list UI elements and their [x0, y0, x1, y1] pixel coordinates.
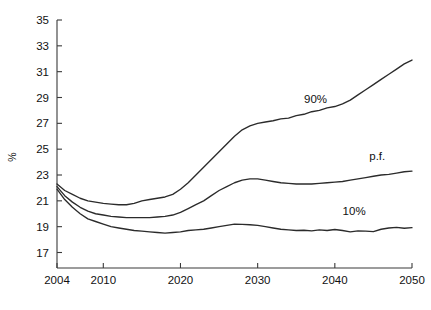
series-label-90: 90% [304, 93, 327, 105]
y-tick-label: 23 [36, 169, 49, 181]
y-axis-title-text: % [6, 152, 18, 161]
y-tick-label: 31 [36, 66, 49, 78]
y-axis-title: % [6, 152, 18, 161]
y-tick-label: 17 [36, 247, 49, 259]
chart-container: 17192123252729313335 2004201020202030204… [0, 0, 431, 310]
series-label-10: 10% [343, 205, 366, 217]
x-axis-ticks: 200420102020203020402050 [44, 263, 425, 286]
x-tick-label: 2020 [168, 274, 194, 286]
y-tick-label: 27 [36, 117, 49, 129]
x-tick-label: 2004 [44, 274, 70, 286]
y-axis-ticks: 17192123252729313335 [36, 14, 62, 259]
y-tick-label: 21 [36, 195, 49, 207]
y-tick-label: 33 [36, 40, 49, 52]
y-tick-label: 35 [36, 14, 49, 26]
y-tick-label: 19 [36, 221, 49, 233]
x-tick-label: 2010 [91, 274, 117, 286]
y-tick-label: 29 [36, 92, 49, 104]
series-label-pf: p.f. [369, 150, 385, 162]
x-tick-label: 2030 [245, 274, 271, 286]
y-tick-label: 25 [36, 143, 49, 155]
x-tick-label: 2050 [399, 274, 425, 286]
x-tick-label: 2040 [322, 274, 348, 286]
line-chart: 17192123252729313335 2004201020202030204… [0, 0, 431, 310]
